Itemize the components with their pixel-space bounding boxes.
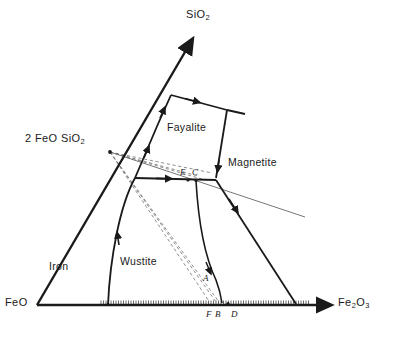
- corner-label-fe2o3: Fe2O3: [338, 297, 370, 310]
- point-label-C: C: [192, 168, 199, 177]
- node-compound: [108, 150, 112, 154]
- fayalite-top-arrow: [185, 99, 200, 103]
- corner-label-feo: FeO: [5, 297, 28, 308]
- phase-diagram-canvas: [0, 0, 406, 341]
- magnetite-right-boundary: [216, 180, 296, 304]
- fayalite-corner-tail: [227, 110, 245, 114]
- corner-label-sio2: SiO2: [186, 9, 210, 22]
- fayalite-left-edge-arrow1: [144, 146, 149, 158]
- point-label-E: E: [180, 168, 186, 177]
- region-label-fayalite: Fayalite: [167, 122, 206, 133]
- point-label-A: A: [203, 274, 209, 283]
- wustite-top-boundary: [135, 178, 216, 180]
- node-baseline-iron: [107, 303, 110, 306]
- region-label-iron: Iron: [49, 261, 68, 272]
- phase-diagram-figure: SiO2 FeO Fe2O3 2 FeO SiO2 Iron Wustite F…: [0, 0, 406, 341]
- point-label-F: F: [206, 310, 212, 319]
- point-label-B: B: [215, 310, 221, 319]
- wustite-magnetite-curve: [196, 181, 222, 303]
- magnetite-boundary-arrow: [229, 199, 238, 213]
- compound-label-2feo-sio2: 2 FeO SiO2: [25, 133, 85, 146]
- iron-wustite-arrow: [117, 232, 119, 245]
- point-label-D: D: [231, 310, 238, 319]
- iron-wustite-boundary: [108, 178, 135, 305]
- region-label-wustite: Wustite: [120, 256, 157, 267]
- fayalite-left-edge-arrow2: [160, 107, 165, 118]
- node-C: [194, 179, 197, 182]
- region-label-magnetite: Magnetite: [228, 157, 277, 168]
- node-D: [226, 302, 229, 305]
- node-E: [186, 178, 189, 181]
